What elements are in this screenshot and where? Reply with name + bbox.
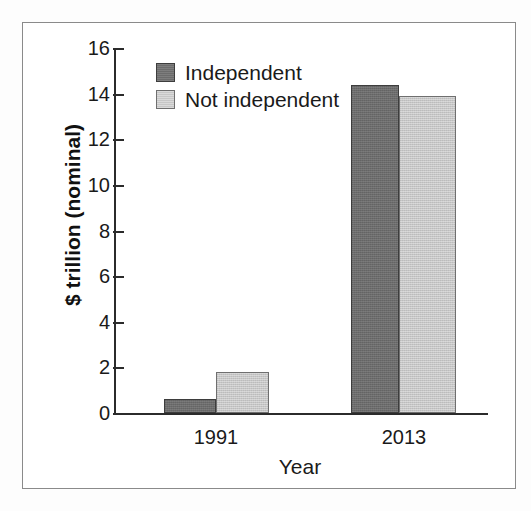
legend-label-independent: Independent (185, 62, 302, 83)
y-tick-14 (113, 94, 124, 96)
y-tick-6 (113, 276, 124, 278)
y-axis-title: $ trillion (nominal) (61, 45, 85, 385)
y-tick-label-0: 0 (50, 403, 110, 423)
dark-swatch-icon (156, 63, 175, 82)
y-tick-4 (113, 322, 124, 324)
legend-item-not-independent: Not independent (156, 86, 339, 113)
x-axis-line (114, 413, 488, 415)
bar-2013-not-independent (399, 96, 456, 413)
legend-label-not-independent: Not independent (185, 89, 339, 110)
bar-2013-independent (351, 85, 399, 414)
bar-1991-independent (164, 399, 216, 413)
figure-frame: 16 14 12 10 8 6 4 2 0 1991 2013 Year $ t… (22, 22, 516, 489)
y-tick-16 (113, 48, 124, 50)
chart-legend: Independent Not independent (156, 59, 339, 113)
y-tick-0 (113, 413, 124, 415)
y-tick-10 (113, 185, 124, 187)
legend-item-independent: Independent (156, 59, 339, 86)
x-tick-label-1991: 1991 (194, 426, 239, 449)
bar-1991-not-independent (216, 372, 269, 413)
y-tick-12 (113, 139, 124, 141)
y-tick-8 (113, 231, 124, 233)
y-tick-2 (113, 367, 124, 369)
x-axis-title: Year (114, 455, 486, 479)
light-swatch-icon (156, 90, 175, 109)
x-tick-label-2013: 2013 (382, 426, 427, 449)
scanned-figure-page: 16 14 12 10 8 6 4 2 0 1991 2013 Year $ t… (0, 0, 531, 511)
